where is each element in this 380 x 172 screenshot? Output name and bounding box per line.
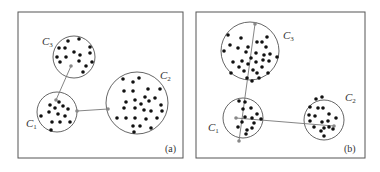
panel-a-tag: (a) [165,143,176,155]
panel-b-frame [196,12,365,158]
panel-a-frame [18,12,183,158]
panel-a: C3 C1 C2 (a) [18,12,183,158]
panel-b: C3 C1 C2 (b) [196,12,365,158]
panel-b-tag: (b) [344,143,356,155]
cluster-distance-diagram: C3 C1 C2 (a) [0,0,380,172]
